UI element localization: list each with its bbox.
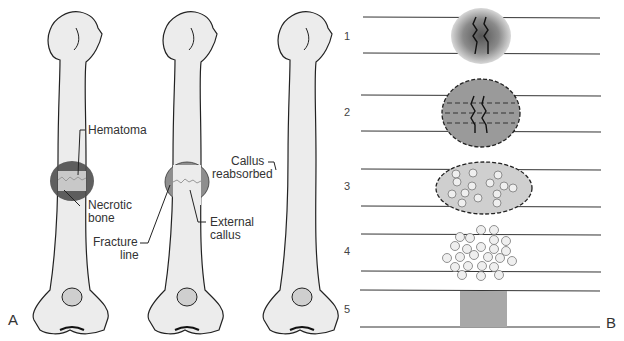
panel-letter-b: B [606, 314, 616, 331]
stage-3-bony-callus [436, 162, 532, 214]
bone-stage-hematoma [33, 12, 108, 334]
stage-1-hematoma [451, 8, 511, 64]
stage-5-healed [460, 291, 507, 327]
leader-fracture [140, 185, 170, 243]
fracture-healing-diagram [0, 0, 624, 341]
label-external-callus-2: callus [210, 229, 241, 242]
stage-number-1: 1 [344, 30, 350, 42]
panel-letter-a: A [8, 311, 18, 328]
label-hematoma: Hematoma [88, 124, 147, 137]
bone-stage-remodeled [263, 12, 338, 334]
stage-number-2: 2 [344, 106, 350, 118]
stage-4-remodeling [443, 226, 517, 281]
stage-number-4: 4 [344, 245, 350, 257]
stage-number-5: 5 [344, 303, 350, 315]
label-callus-reabsorbed-2: reabsorbed [212, 168, 273, 181]
stage-number-3: 3 [344, 180, 350, 192]
stage-2-fibrocartilage [442, 79, 520, 147]
label-necrotic-bone-2: bone [88, 212, 115, 225]
label-fracture-line-2: line [120, 249, 139, 262]
